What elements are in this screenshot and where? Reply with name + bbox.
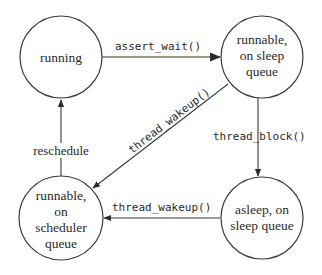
state-label-line: runnable, (36, 188, 87, 203)
edge-reschedule: reschedule (33, 100, 89, 176)
edge-label-reschedule: reschedule (33, 143, 89, 158)
edge-thread-wakeup-diagonal: thread_wakeup() (93, 84, 228, 188)
edge-label-thread-block: thread_block() (213, 130, 306, 143)
state-label-line: queue (45, 236, 77, 251)
state-label-line: scheduler (35, 220, 87, 235)
state-label-line: queue (246, 64, 278, 79)
edge-thread-wakeup-horizontal: thread_wakeup() (104, 201, 220, 218)
state-runnable-sleep-queue: runnable, on sleep queue (221, 16, 303, 98)
edge-label-thread-wakeup-horizontal: thread_wakeup() (112, 201, 211, 214)
state-label-line: on sleep (240, 48, 285, 63)
state-label-line: on (54, 204, 68, 219)
state-label-line: runnable, (237, 32, 288, 47)
edge-label-assert-wait: assert_wait() (115, 40, 201, 53)
edge-thread-block: thread_block() (213, 98, 306, 176)
state-runnable-scheduler-queue: runnable, on scheduler queue (19, 176, 103, 260)
state-label-line: running (40, 50, 82, 65)
state-asleep-sleep-queue: asleep, on sleep queue (221, 177, 303, 259)
state-diagram: assert_wait() thread_block() thread_wake… (0, 0, 322, 275)
state-label-line: sleep queue (230, 218, 293, 233)
edge-assert-wait: assert_wait() (102, 40, 220, 57)
state-label-line: asleep, on (235, 202, 289, 217)
state-running: running (20, 16, 102, 98)
edge-label-thread-wakeup-diagonal: thread_wakeup() (126, 85, 213, 156)
